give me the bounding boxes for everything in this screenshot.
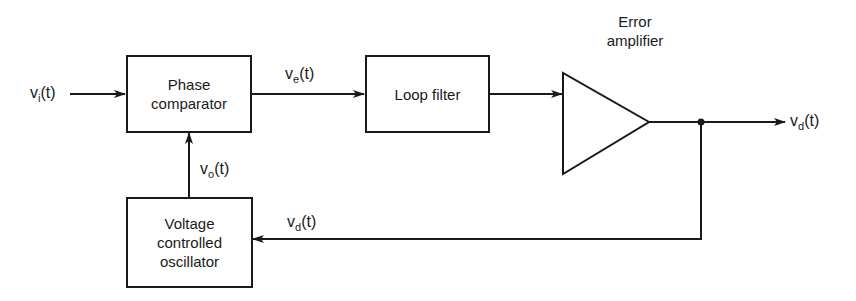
input-signal-base: v — [30, 84, 38, 101]
error-signal-label: ve(t) — [285, 65, 314, 88]
phase-comparator-line1: Phase — [151, 75, 227, 94]
input-signal-arg: (t) — [40, 84, 55, 101]
vco-output-signal-arg: (t) — [214, 160, 229, 177]
loop-filter-block: Loop filter — [365, 55, 490, 133]
output-signal-base: v — [790, 112, 798, 129]
input-signal-label: vi(t) — [30, 84, 56, 107]
phase-comparator-block: Phase comparator — [126, 55, 252, 133]
vco-block: Voltage controlled oscillator — [126, 197, 253, 288]
phase-comparator-line2: comparator — [151, 94, 227, 113]
feedback-signal-base: v — [287, 213, 295, 230]
vco-output-signal-base: v — [200, 160, 208, 177]
vco-line2: controlled — [157, 233, 222, 252]
vco-output-signal-label: vo(t) — [200, 160, 229, 183]
error-signal-arg: (t) — [299, 65, 314, 82]
output-signal-label: vd(t) — [790, 112, 819, 135]
output-signal-arg: (t) — [804, 112, 819, 129]
loop-filter-label: Loop filter — [395, 85, 461, 104]
feedback-signal-label: vd(t) — [287, 213, 316, 236]
error-amplifier-label: Error amplifier — [580, 12, 690, 50]
error-amplifier-triangle — [563, 73, 649, 174]
feedback-signal-arg: (t) — [301, 213, 316, 230]
error-amplifier-line2: amplifier — [580, 31, 690, 50]
error-signal-base: v — [285, 65, 293, 82]
error-amplifier-line1: Error — [580, 12, 690, 31]
vco-line3: oscillator — [157, 252, 222, 271]
vco-line1: Voltage — [157, 214, 222, 233]
